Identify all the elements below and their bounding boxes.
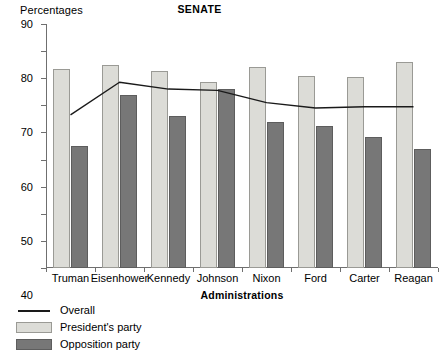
legend-swatch-icon	[16, 322, 52, 333]
legend-label: Opposition party	[60, 339, 140, 350]
x-category-label: Truman	[52, 272, 90, 284]
chart-title: SENATE	[0, 3, 423, 15]
x-category-label: Kennedy	[147, 272, 190, 284]
legend-item: Opposition party	[16, 337, 142, 350]
y-tick-label: 70	[21, 127, 33, 138]
y-tick-label: 80	[21, 73, 33, 84]
legend-label: President's party	[60, 322, 142, 333]
x-category-label: Carter	[349, 272, 380, 284]
y-tick-label: 40	[21, 290, 33, 301]
y-tick-label: 50	[21, 235, 33, 246]
overall-line-series	[46, 24, 438, 268]
chart-legend: OverallPresident's partyOpposition party	[16, 303, 142, 350]
x-category-label: Reagan	[394, 272, 433, 284]
x-category-label: Eisenhower	[91, 272, 148, 284]
legend-line-icon	[16, 305, 52, 316]
x-category-label: Nixon	[252, 272, 280, 284]
x-category-label: Ford	[304, 272, 327, 284]
x-axis-title: Administrations	[46, 289, 438, 301]
legend-label: Overall	[60, 305, 95, 316]
y-tick-label: 60	[21, 181, 33, 192]
chart-figure: Percentages SENATE 0102030405060708090 T…	[0, 0, 447, 350]
x-category-label: Johnson	[197, 272, 239, 284]
overall-polyline	[71, 82, 414, 115]
x-tick	[438, 268, 439, 272]
x-axis-category-labels: TrumanEisenhowerKennedyJohnsonNixonFordC…	[46, 272, 438, 288]
plot-area: 0102030405060708090	[46, 24, 438, 268]
legend-item: Overall	[16, 303, 142, 318]
legend-swatch-icon	[16, 339, 52, 350]
y-tick-label: 90	[21, 19, 33, 30]
legend-item: President's party	[16, 320, 142, 335]
